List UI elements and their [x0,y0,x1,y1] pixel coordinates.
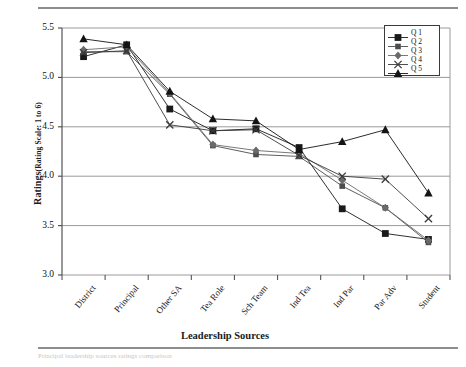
legend-label: Q 5 [409,64,422,73]
legend-marker-icon [387,28,409,37]
legend-item-q2[interactable]: Q 2 [387,37,437,46]
legend-item-q5[interactable]: Q 5 [387,64,437,73]
legend-label: Q 1 [409,28,422,37]
y-tick-label: 4.5 [24,121,54,131]
data-point-marker [424,189,432,197]
data-point-marker [209,114,217,122]
figure-page: Principal leadership sources ratings com… [0,0,466,367]
data-point-marker [339,205,346,212]
figure-footnote: Principal leadership sources ratings com… [38,352,456,361]
data-point-marker [382,230,389,237]
legend-item-q4[interactable]: Q 4 [387,55,437,64]
legend-marker-icon [387,64,409,73]
y-tick-label: 3.0 [24,269,54,279]
legend-item-q3[interactable]: Q 3 [387,46,437,55]
legend-label: Q 2 [409,37,422,46]
data-point-marker [79,34,87,42]
y-tick-label: 5.5 [24,22,54,32]
y-tick-label: 4.0 [24,170,54,180]
line-chart: Ratings(Rating Scale: 1 to 6) Leadership… [0,0,466,347]
legend-item-q1[interactable]: Q 1 [387,28,437,37]
legend-label: Q 4 [409,55,422,64]
data-point-marker [425,215,432,222]
series-q4 [80,47,432,222]
data-point-marker [339,176,346,184]
series-q5 [79,34,432,196]
figure-bottom-rule [38,347,458,349]
legend-marker-icon [387,46,409,55]
y-tick-label: 3.5 [24,220,54,230]
legend-label: Q 3 [409,46,422,55]
legend-marker-icon [387,37,409,46]
series-q3 [80,43,432,245]
legend-marker-icon [387,55,409,64]
series-q1 [80,41,432,242]
chart-legend: Q 1Q 2Q 3Q 4Q 5 [384,25,440,76]
data-point-marker [166,106,173,113]
y-tick-label: 5.0 [24,71,54,81]
data-point-marker [394,69,402,77]
y-axis-title-note: (Rating Scale: 1 to 6) [34,102,43,171]
